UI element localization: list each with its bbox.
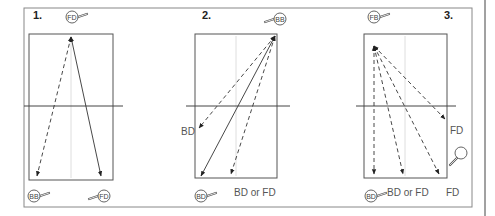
diagram-canvas: FDBBFD1.BBBD2.BDBD or FDFBBD3.FDBD or FD… — [0, 0, 495, 216]
paddle-icon: FD — [66, 11, 87, 23]
stroke-label: BD — [181, 126, 195, 137]
dashed-arrow — [374, 46, 439, 174]
paddle-icon: FD — [89, 190, 110, 202]
paddle-icon: BB — [265, 13, 286, 25]
dashed-arrow — [231, 36, 275, 174]
panel-number: 3. — [444, 9, 453, 21]
paddle-label: BD — [196, 193, 206, 200]
paddle-icon: FB — [368, 11, 389, 23]
panel-3: FBBD3.FDBD or FDFD — [356, 9, 467, 202]
paddle-label: BB — [29, 193, 39, 200]
paddle-icon — [450, 147, 467, 165]
stroke-label: FD — [450, 125, 463, 136]
dashed-arrow — [374, 46, 445, 119]
stroke-label: BD or FD — [234, 187, 276, 198]
panel-2: BBBD2.BDBD or FD — [181, 9, 290, 202]
paddle-icon: BB — [28, 190, 49, 202]
panel-number: 2. — [202, 9, 211, 21]
panel-1: FDBBFD1. — [24, 9, 123, 202]
paddle-icon: BD — [195, 190, 216, 202]
dashed-arrow — [199, 36, 275, 128]
paddle-label: FD — [99, 193, 108, 200]
paddle-label: BD — [366, 193, 376, 200]
paddle-label: FB — [370, 14, 379, 21]
paddle-label: BB — [275, 16, 285, 23]
dashed-arrow — [374, 46, 403, 174]
paddle-label: FD — [67, 14, 76, 21]
paddle-icon: BD — [365, 190, 386, 202]
table-tennis-diagram: FDBBFD1.BBBD2.BDBD or FDFBBD3.FDBD or FD… — [0, 0, 495, 216]
stroke-label: BD or FD — [387, 187, 429, 198]
stroke-label: FD — [446, 187, 459, 198]
panel-number: 1. — [33, 9, 42, 21]
